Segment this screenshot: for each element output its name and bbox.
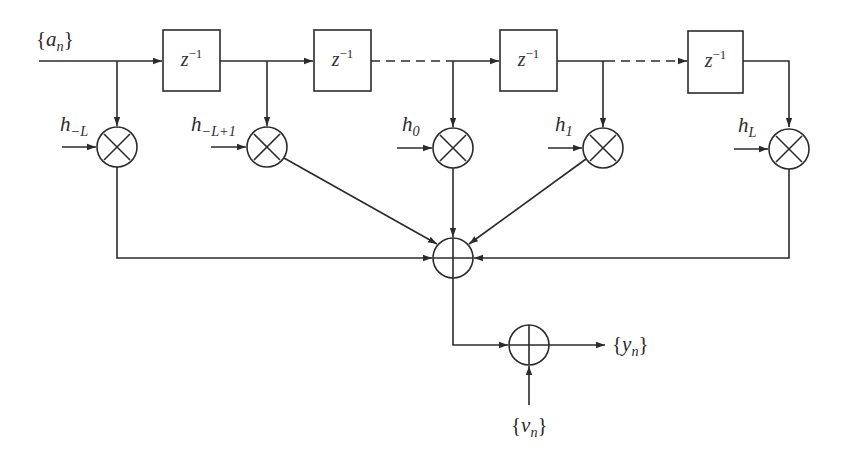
noise-label: {vn} bbox=[511, 413, 548, 441]
summer-main bbox=[433, 238, 473, 278]
tap-label-1: h1 bbox=[555, 112, 573, 140]
multiplier-L bbox=[769, 129, 809, 169]
tap-label-0: h0 bbox=[402, 112, 420, 140]
coefficient-arrows bbox=[62, 147, 768, 149]
summer-to-noise-adder bbox=[453, 278, 508, 345]
multiplier-0 bbox=[433, 128, 473, 168]
tap-label-L: hL bbox=[738, 113, 756, 141]
output-label: {yn} bbox=[612, 332, 649, 360]
multiplier-minus-L-plus-1 bbox=[247, 127, 287, 167]
input-label: {an} bbox=[36, 27, 74, 55]
delay-label-3: z−1 bbox=[500, 46, 557, 71]
delay-label-4: z−1 bbox=[688, 47, 743, 72]
delay-label-1: z−1 bbox=[163, 46, 220, 71]
delay-label-2: z−1 bbox=[314, 46, 371, 71]
multiplier-minus-L bbox=[97, 127, 137, 167]
multiplier-1 bbox=[583, 128, 623, 168]
tap-label-minus-L: h−L bbox=[60, 112, 88, 140]
tap-label-minus-L-plus-1: h−L+1 bbox=[191, 112, 236, 140]
noise-adder bbox=[509, 325, 549, 365]
